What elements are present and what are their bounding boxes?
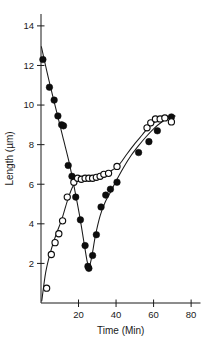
data-point-filled bbox=[89, 252, 96, 259]
data-point-filled bbox=[77, 217, 84, 224]
data-point-filled bbox=[51, 97, 58, 104]
y-tick-label: 6 bbox=[29, 179, 34, 190]
data-points bbox=[40, 56, 175, 291]
data-point-filled bbox=[154, 127, 161, 134]
data-point-filled bbox=[82, 242, 89, 249]
data-point-filled bbox=[146, 138, 153, 145]
data-point-filled bbox=[114, 179, 121, 186]
y-tick-label: 12 bbox=[23, 60, 34, 71]
data-point-open bbox=[56, 231, 62, 237]
fit-curve-open-fit bbox=[42, 116, 175, 301]
y-tick-label: 10 bbox=[23, 99, 34, 110]
data-point-open bbox=[52, 240, 58, 246]
chart-container: 246810121420406080 Time (Min) Length (µm… bbox=[0, 0, 220, 341]
data-point-filled bbox=[65, 162, 72, 169]
data-point-filled bbox=[135, 149, 142, 156]
data-point-open bbox=[114, 163, 120, 169]
x-tick-label: 80 bbox=[186, 309, 197, 320]
data-point-open bbox=[59, 218, 65, 224]
data-point-open bbox=[105, 170, 111, 176]
y-tick-label: 14 bbox=[23, 20, 34, 31]
data-point-filled bbox=[40, 56, 47, 63]
data-point-filled bbox=[102, 192, 109, 199]
y-tick-label: 2 bbox=[29, 258, 34, 269]
y-tick-label: 8 bbox=[29, 139, 34, 150]
x-axis-title: Time (Min) bbox=[97, 325, 144, 336]
data-point-open bbox=[44, 285, 50, 291]
x-tick-label: 60 bbox=[148, 309, 159, 320]
data-point-filled bbox=[72, 194, 79, 201]
data-point-open bbox=[162, 115, 168, 121]
x-tick-label: 20 bbox=[73, 309, 84, 320]
axes bbox=[41, 14, 201, 303]
data-point-filled bbox=[107, 186, 114, 193]
data-point-open bbox=[168, 119, 174, 125]
data-point-filled bbox=[55, 113, 62, 120]
data-point-filled bbox=[93, 231, 100, 238]
x-tick-label: 40 bbox=[111, 309, 122, 320]
data-point-open bbox=[48, 251, 54, 257]
data-point-filled bbox=[60, 123, 67, 130]
y-axis-title: Length (µm) bbox=[4, 131, 15, 185]
data-point-open bbox=[64, 194, 70, 200]
scatter-plot: 246810121420406080 Time (Min) Length (µm… bbox=[0, 0, 220, 341]
data-point-filled bbox=[98, 204, 105, 211]
data-point-filled bbox=[46, 84, 53, 91]
data-point-filled bbox=[86, 265, 93, 272]
y-tick-label: 4 bbox=[29, 218, 34, 229]
